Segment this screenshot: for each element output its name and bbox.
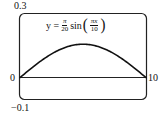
y-min-label: −0.1	[11, 103, 29, 113]
sine-curve	[20, 44, 147, 78]
x-max-label: 10	[148, 73, 158, 83]
argument-fraction: πx 10	[90, 18, 99, 33]
coefficient-fraction: π 20	[61, 18, 68, 33]
x-min-label: 0	[10, 73, 15, 83]
y-max-label: 0.3	[14, 1, 27, 11]
function-name: sin	[70, 20, 82, 31]
equation-lhs: y =	[46, 20, 59, 31]
equation-label: y = π 20 sin ( πx 10 )	[46, 18, 105, 33]
